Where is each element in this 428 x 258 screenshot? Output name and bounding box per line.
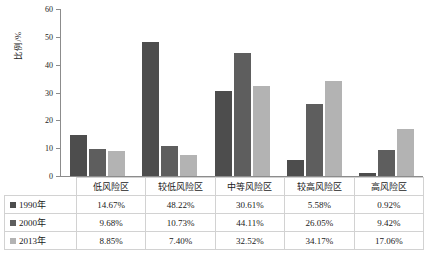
category-header-cell: 中等风险区 xyxy=(215,178,284,196)
bar xyxy=(253,86,270,177)
legend-swatch-icon xyxy=(10,202,16,208)
bar xyxy=(161,146,178,176)
y-axis-tick-label: 20 xyxy=(45,116,53,125)
table-value-cell: 9.42% xyxy=(354,214,423,232)
legend-cell: 2013年 xyxy=(5,232,77,250)
y-axis-label: 比例/% xyxy=(11,0,25,60)
bar-group xyxy=(351,9,423,176)
bar xyxy=(180,155,197,176)
bar xyxy=(108,151,125,176)
bar xyxy=(215,91,232,176)
y-axis-tick-label: 50 xyxy=(45,32,53,41)
table-value-cell: 30.61% xyxy=(215,196,284,214)
legend-series-label: 2013年 xyxy=(19,236,46,246)
bar xyxy=(325,81,342,176)
table-value-cell: 5.58% xyxy=(285,196,354,214)
bar xyxy=(89,149,106,176)
category-header-cell: 低风险区 xyxy=(77,178,146,196)
legend-series-label: 2000年 xyxy=(19,218,46,228)
table-value-cell: 0.92% xyxy=(354,196,423,214)
table-value-cell: 7.40% xyxy=(146,232,215,250)
legend-cell: 1990年 xyxy=(5,196,77,214)
table-value-cell: 10.73% xyxy=(146,214,215,232)
legend-swatch-icon xyxy=(10,238,16,244)
bar xyxy=(306,104,323,177)
bar xyxy=(70,135,87,176)
data-table-body: 低风险区较低风险区中等风险区较高风险区高风险区1990年14.67%48.22%… xyxy=(5,178,424,250)
table-row: 2013年8.85%7.40%32.52%34.17%17.06% xyxy=(5,232,424,250)
category-header-cell: 较高风险区 xyxy=(285,178,354,196)
legend-cell: 2000年 xyxy=(5,214,77,232)
category-header-cell: 高风险区 xyxy=(354,178,423,196)
table-value-cell: 9.68% xyxy=(77,214,146,232)
table-row: 2000年9.68%10.73%44.11%26.05%9.42% xyxy=(5,214,424,232)
table-corner-cell xyxy=(5,178,77,196)
y-axis: 6050403020100 xyxy=(28,8,60,180)
bar xyxy=(142,42,159,176)
y-axis-tick-label: 60 xyxy=(45,5,53,14)
bar xyxy=(397,129,414,176)
bar-groups xyxy=(61,9,423,176)
bar xyxy=(359,173,376,176)
bar xyxy=(287,160,304,176)
table-value-cell: 32.52% xyxy=(215,232,284,250)
table-value-cell: 48.22% xyxy=(146,196,215,214)
bar xyxy=(234,53,251,176)
table-row: 1990年14.67%48.22%30.61%5.58%0.92% xyxy=(5,196,424,214)
table-value-cell: 17.06% xyxy=(354,232,423,250)
table-value-cell: 34.17% xyxy=(285,232,354,250)
bar-group xyxy=(61,9,133,176)
table-value-cell: 8.85% xyxy=(77,232,146,250)
y-axis-tick-label: 30 xyxy=(45,88,53,97)
bar-group xyxy=(206,9,278,176)
chart-figure: 比例/% 6050403020100 低风险区较低风险区中等风险区较高风险区高风… xyxy=(0,0,428,258)
category-header-cell: 较低风险区 xyxy=(146,178,215,196)
table-row: 低风险区较低风险区中等风险区较高风险区高风险区 xyxy=(5,178,424,196)
bar-group xyxy=(278,9,350,176)
plot-area: 比例/% 6050403020100 xyxy=(0,0,428,186)
legend-series-label: 1990年 xyxy=(19,200,46,210)
y-axis-tick-label: 40 xyxy=(45,60,53,69)
bar xyxy=(378,150,395,176)
legend-swatch-icon xyxy=(10,220,16,226)
bar-group xyxy=(133,9,205,176)
y-axis-tick-label: 10 xyxy=(45,144,53,153)
data-table: 低风险区较低风险区中等风险区较高风险区高风险区1990年14.67%48.22%… xyxy=(4,177,424,250)
table-value-cell: 14.67% xyxy=(77,196,146,214)
table-value-cell: 44.11% xyxy=(215,214,284,232)
table-value-cell: 26.05% xyxy=(285,214,354,232)
